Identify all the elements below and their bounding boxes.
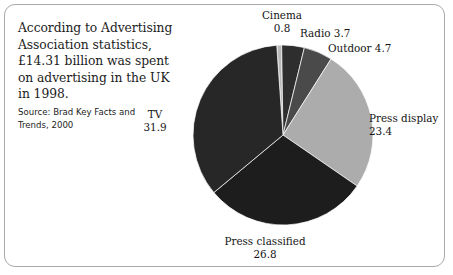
pie-label-radio-name: Radio	[300, 27, 331, 39]
pie-label-press-classified-name: Press classified	[209, 235, 321, 248]
pie-label-press-classified: Press classified 26.8	[209, 235, 321, 260]
pie-label-outdoor-value: 4.7	[375, 42, 392, 54]
pie-label-outdoor-name: Outdoor	[328, 42, 372, 54]
pie-label-press-display-name: Press display	[369, 112, 451, 125]
figure-root: According to Advertising Association sta…	[0, 0, 453, 275]
pie-label-cinema-name: Cinema	[249, 9, 315, 22]
pie-label-tv-value: 31.9	[127, 121, 183, 134]
pie-label-press-display: Press display 23.4	[369, 112, 451, 137]
pie-label-press-display-value: 23.4	[369, 125, 451, 138]
pie-label-outdoor: Outdoor 4.7	[328, 42, 420, 55]
pie-label-radio: Radio 3.7	[300, 27, 376, 40]
pie-label-press-classified-value: 26.8	[209, 248, 321, 261]
pie-label-tv: TV 31.9	[127, 108, 183, 133]
pie-label-radio-value: 3.7	[334, 27, 351, 39]
pie-chart: Cinema 0.8 Radio 3.7 Outdoor 4.7 Press d…	[0, 0, 453, 275]
pie-label-tv-name: TV	[127, 108, 183, 121]
